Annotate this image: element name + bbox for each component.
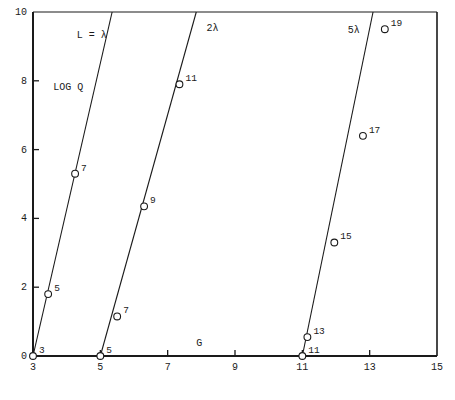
- x-axis-tick-label: 11: [296, 362, 308, 373]
- data-point-marker[interactable]: [381, 26, 388, 33]
- data-point-label: 9: [150, 195, 156, 206]
- data-point-marker[interactable]: [30, 353, 37, 360]
- data-point-label: 3: [39, 345, 45, 356]
- data-point-marker[interactable]: [141, 203, 148, 210]
- data-point-marker[interactable]: [176, 81, 183, 88]
- chart-annotation: LOG Q: [53, 82, 83, 93]
- y-axis-tick-label: 6: [3, 144, 27, 155]
- chart-annotation: G: [196, 338, 202, 349]
- data-point-marker[interactable]: [45, 291, 52, 298]
- y-axis-tick-label: 0: [3, 351, 27, 362]
- data-point-label: 7: [81, 163, 87, 174]
- x-axis-tick-label: 13: [364, 362, 376, 373]
- series-line: [100, 12, 196, 356]
- chart-annotation: 2λ: [206, 23, 218, 34]
- x-axis-tick-label: 3: [30, 362, 36, 373]
- x-axis-tick-label: 7: [165, 362, 171, 373]
- data-point-marker[interactable]: [304, 334, 311, 341]
- x-axis-tick-label: 5: [97, 362, 103, 373]
- x-axis-tick-label: 9: [232, 362, 238, 373]
- y-axis-tick-label: 10: [3, 7, 27, 18]
- series-line: [33, 12, 112, 356]
- data-point-label: 17: [369, 125, 380, 136]
- data-point-marker[interactable]: [97, 353, 104, 360]
- data-point-label: 13: [313, 326, 324, 337]
- data-point-label: 11: [185, 73, 196, 84]
- series-line: [302, 12, 373, 356]
- data-point-label: 5: [54, 283, 60, 294]
- data-point-marker[interactable]: [299, 353, 306, 360]
- y-axis-tick-label: 2: [3, 282, 27, 293]
- data-point-label: 7: [123, 305, 129, 316]
- data-point-label: 5: [106, 345, 112, 356]
- chart-annotation: 5λ: [348, 25, 360, 36]
- data-point-label: 11: [308, 345, 319, 356]
- data-point-marker[interactable]: [331, 239, 338, 246]
- y-axis-tick-label: 8: [3, 75, 27, 86]
- y-axis-tick-label: 4: [3, 213, 27, 224]
- x-axis-tick-label: 15: [431, 362, 443, 373]
- plot-area: [0, 0, 455, 400]
- data-point-marker[interactable]: [72, 170, 79, 177]
- chart-annotation: L = λ: [77, 30, 107, 41]
- chart-container: 02468103579111315357579111113151719L = λ…: [0, 0, 455, 400]
- data-point-label: 15: [340, 231, 351, 242]
- data-point-marker[interactable]: [114, 313, 121, 320]
- data-point-marker[interactable]: [360, 132, 367, 139]
- data-point-label: 19: [391, 18, 402, 29]
